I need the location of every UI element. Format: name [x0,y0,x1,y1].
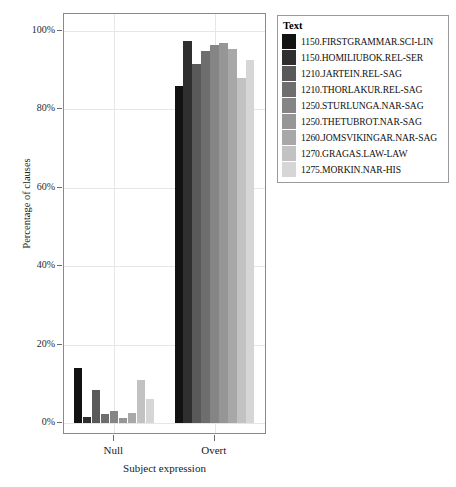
legend-item-label: 1210.JARTEIN.REL-SAG [301,68,402,79]
y-tick-mark [57,265,62,266]
bar-null-series-4 [110,411,118,423]
legend-swatch-icon [282,130,296,145]
chart-plot-inner [64,14,265,433]
gridline-horizontal [64,31,265,32]
legend-item: 1210.JARTEIN.REL-SAG [282,65,444,81]
y-tick-label: 0% [11,417,55,427]
y-tick-label: 100% [11,25,55,35]
y-tick-mark [57,30,62,31]
bar-overt-series-8 [246,60,254,423]
legend-items: 1150.FIRSTGRAMMAR.SCI-LIN1150.HOMILIUBOK… [282,33,444,177]
legend-swatch-icon [282,114,296,129]
legend-item-label: 1250.STURLUNGA.NAR-SAG [301,100,424,111]
bar-overt-series-4 [210,45,218,423]
legend-item: 1210.THORLAKUR.REL-SAG [282,81,444,97]
legend-item-label: 1250.THETUBROT.NAR-SAG [301,116,422,127]
legend-item: 1275.MORKIN.NAR-HIS [282,161,444,177]
bar-overt-series-7 [237,78,245,423]
x-tick-mark [214,435,215,441]
legend-item: 1270.GRAGAS.LAW-LAW [282,145,444,161]
x-axis-label: Subject expression [63,462,266,474]
bar-overt-series-1 [183,41,191,423]
legend-swatch-icon [282,66,296,81]
legend-title: Text [282,19,444,32]
y-tick-label: 60% [11,182,55,192]
y-tick-mark [57,187,62,188]
legend-item-label: 1260.JOMSVIKINGAR.NAR-SAG [301,132,437,143]
legend-swatch-icon [282,146,296,161]
chart-legend: Text 1150.FIRSTGRAMMAR.SCI-LIN1150.HOMIL… [277,15,449,183]
x-tick-label-null: Null [73,444,153,456]
bar-overt-series-2 [192,64,200,423]
legend-item: 1150.FIRSTGRAMMAR.SCI-LIN [282,33,444,49]
gridline-horizontal [64,423,265,424]
legend-item-label: 1270.GRAGAS.LAW-LAW [301,148,407,159]
y-tick-label: 40% [11,260,55,270]
bar-null-series-5 [119,418,127,423]
legend-swatch-icon [282,162,296,177]
bar-overt-series-0 [175,86,183,423]
legend-swatch-icon [282,50,296,65]
bar-null-series-2 [92,390,100,423]
bar-null-series-0 [74,368,82,423]
legend-item-label: 1150.FIRSTGRAMMAR.SCI-LIN [301,36,433,47]
y-tick-label: 80% [11,103,55,113]
y-axis-label: Percentage of clauses [21,104,32,304]
legend-item: 1260.JOMSVIKINGAR.NAR-SAG [282,129,444,145]
bar-overt-series-6 [228,49,236,423]
y-tick-mark [57,422,62,423]
y-tick-label: 20% [11,339,55,349]
x-tick-label-overt: Overt [174,444,254,456]
bar-null-series-1 [83,417,91,423]
bar-null-series-8 [146,399,154,423]
bar-overt-series-3 [201,51,209,423]
y-tick-mark [57,108,62,109]
bar-null-series-7 [137,380,145,423]
legend-item-label: 1150.HOMILIUBOK.REL-SER [301,52,423,63]
legend-item-label: 1210.THORLAKUR.REL-SAG [301,84,422,95]
bar-null-series-3 [101,414,109,423]
x-tick-mark [113,435,114,441]
legend-swatch-icon [282,34,296,49]
legend-swatch-icon [282,98,296,113]
bar-null-series-6 [128,413,136,423]
bar-overt-series-5 [219,43,227,423]
legend-item: 1250.STURLUNGA.NAR-SAG [282,97,444,113]
y-tick-mark [57,344,62,345]
legend-item: 1150.HOMILIUBOK.REL-SER [282,49,444,65]
legend-swatch-icon [282,82,296,97]
gridline-vertical [114,14,115,433]
legend-item: 1250.THETUBROT.NAR-SAG [282,113,444,129]
legend-item-label: 1275.MORKIN.NAR-HIS [301,164,401,175]
chart-plot-area [63,13,266,434]
